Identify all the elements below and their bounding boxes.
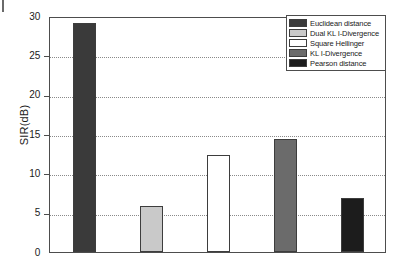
bar-dual-kl-i-divergence bbox=[140, 206, 163, 252]
legend-swatch-dual-kl-i-divergence bbox=[289, 29, 307, 37]
bar-euclidean-distance bbox=[73, 23, 96, 252]
bar-kl-i-divergence bbox=[274, 139, 297, 252]
legend-label-euclidean-distance: Euclidean distance bbox=[310, 19, 371, 28]
y-tick-label-5: 5 bbox=[14, 208, 40, 218]
legend-swatch-pearson-distance bbox=[289, 59, 307, 67]
page-corner-mark bbox=[2, 0, 4, 12]
y-tick-label-0: 0 bbox=[14, 248, 40, 258]
bar-chart-figure: SIR(dB) 30 25 20 15 10 5 0 Euclidean dis… bbox=[0, 0, 407, 279]
y-tick-label-20: 20 bbox=[14, 90, 40, 100]
legend-label-pearson-distance: Pearson distance bbox=[310, 59, 366, 68]
legend-swatch-kl-i-divergence bbox=[289, 49, 307, 57]
bar-pearson-distance bbox=[341, 198, 364, 252]
legend-label-dual-kl-i-divergence: Dual KL I-Divergence bbox=[310, 29, 379, 38]
y-tick-label-15: 15 bbox=[14, 130, 40, 140]
gridline-20 bbox=[50, 97, 385, 98]
legend-label-kl-i-divergence: KL I-Divergence bbox=[310, 49, 362, 58]
bar-square-hellinger bbox=[207, 155, 230, 252]
chart-legend: Euclidean distance Dual KL I-Divergence … bbox=[286, 15, 386, 71]
legend-item-euclidean-distance: Euclidean distance bbox=[289, 18, 383, 28]
y-tick-label-25: 25 bbox=[14, 51, 40, 61]
legend-label-square-hellinger: Square Hellinger bbox=[310, 39, 364, 48]
gridline-15 bbox=[50, 136, 385, 137]
legend-item-kl-i-divergence: KL I-Divergence bbox=[289, 48, 383, 58]
legend-item-square-hellinger: Square Hellinger bbox=[289, 38, 383, 48]
y-tick-label-30: 30 bbox=[14, 12, 40, 22]
legend-item-dual-kl-i-divergence: Dual KL I-Divergence bbox=[289, 28, 383, 38]
y-tick-label-10: 10 bbox=[14, 169, 40, 179]
legend-swatch-square-hellinger bbox=[289, 39, 307, 47]
legend-item-pearson-distance: Pearson distance bbox=[289, 58, 383, 68]
legend-swatch-euclidean-distance bbox=[289, 19, 307, 27]
